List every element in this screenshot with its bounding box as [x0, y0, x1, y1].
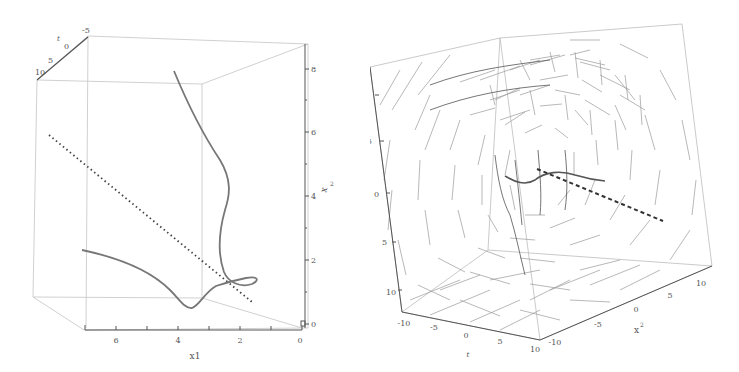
t-tick-0: 0 [463, 331, 468, 340]
right-plot-canvas: -10 -5 0 5 10 x1 -10 -5 0 5 10 t -10 -5 … [370, 0, 739, 372]
t-tick-5: 5 [48, 56, 53, 65]
x1-axis-title: x1 [190, 351, 201, 361]
x2-tick-4: 4 [311, 192, 316, 201]
x2-tick-5: 5 [667, 291, 672, 300]
t-tick-0: 0 [64, 42, 69, 51]
x1-tick-2: 2 [237, 336, 242, 345]
t-axis-title: t [467, 351, 470, 359]
dotted-reference-line [49, 135, 252, 302]
x2-axis-title: x [318, 186, 329, 193]
x2-tick-neg5: -5 [594, 320, 602, 329]
x2-axis [540, 266, 712, 340]
t-tick-neg10: -10 [398, 319, 411, 328]
t-axis [402, 312, 540, 340]
t-axis-title: t [57, 35, 60, 43]
x1-tick-10: 10 [386, 288, 396, 297]
x2-tick-10: 10 [696, 279, 706, 288]
t-tick-5: 5 [497, 337, 502, 346]
dashed-reference-line [537, 169, 663, 221]
x2-tick-0: 0 [311, 320, 316, 329]
t-tick-10: 10 [35, 68, 45, 77]
x1-tick-0: 0 [297, 336, 302, 345]
x2-axis-superscript: 2 [640, 321, 644, 328]
t-tick-10: 10 [530, 345, 540, 354]
left-plot-canvas: 6 4 2 0 x1 0 2 4 6 8 x 2 10 5 [0, 0, 370, 372]
x1-tick-4: 4 [175, 336, 180, 345]
x2-tick-2: 2 [311, 256, 316, 265]
x2-axis-title: x [634, 325, 639, 335]
trajectory-curve [505, 172, 605, 183]
x1-tick-0: 0 [374, 190, 379, 199]
x2-tick-0: 0 [633, 305, 638, 314]
x2-tick-neg10: -10 [549, 338, 562, 347]
right-3d-vector-field-plot: -10 -5 0 5 10 x1 -10 -5 0 5 10 t -10 -5 … [370, 0, 739, 372]
vector-field-arrows [380, 40, 696, 330]
trajectory-curve [82, 71, 257, 308]
x1-tick-6: 6 [113, 336, 118, 345]
left-3d-plot: 6 4 2 0 x1 0 2 4 6 8 x 2 10 5 [0, 0, 370, 372]
x2-axis-superscript: 2 [330, 180, 334, 187]
x1-tick-neg5: -5 [370, 137, 372, 146]
x1-tick-5: 5 [382, 238, 387, 247]
t-tick-neg5: -5 [430, 323, 438, 332]
x2-tick-8: 8 [311, 65, 316, 74]
t-tick-neg5: -5 [82, 26, 90, 35]
center-trajectory-bundle [430, 60, 567, 275]
x2-tick-6: 6 [311, 128, 316, 137]
bounding-box [33, 36, 308, 330]
